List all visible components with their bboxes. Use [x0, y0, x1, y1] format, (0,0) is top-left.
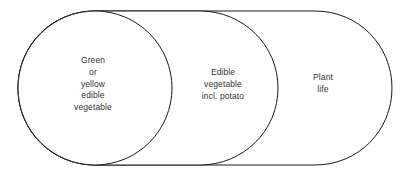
venn-diagram: Green or yellow edible vegetable Edible …: [0, 0, 403, 178]
inner-region-shape: [18, 11, 172, 165]
venn-shapes-canvas: [0, 0, 403, 178]
